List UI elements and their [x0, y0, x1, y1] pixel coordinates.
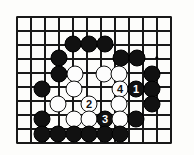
- stone-move-number: 3: [98, 112, 113, 127]
- black-stone[interactable]: [34, 126, 51, 143]
- stone-move-number: 2: [82, 97, 97, 112]
- black-stone[interactable]: [144, 96, 161, 113]
- stone-move-number: 4: [113, 82, 128, 97]
- black-stone[interactable]: [112, 126, 129, 143]
- black-stone[interactable]: [129, 50, 146, 67]
- black-stone[interactable]: [128, 111, 145, 128]
- black-stone-move-1[interactable]: 1: [128, 81, 145, 98]
- black-stone[interactable]: [81, 36, 98, 53]
- black-stone[interactable]: [113, 50, 130, 67]
- white-stone[interactable]: [66, 81, 83, 98]
- black-stone[interactable]: [81, 126, 98, 143]
- stone-move-number: 1: [129, 82, 144, 97]
- black-stone[interactable]: [51, 66, 68, 83]
- white-stone[interactable]: [50, 96, 67, 113]
- black-stone[interactable]: [97, 36, 114, 53]
- black-stone[interactable]: [65, 36, 82, 53]
- black-stone[interactable]: [51, 50, 68, 67]
- black-stone[interactable]: [50, 126, 67, 143]
- black-stone[interactable]: [34, 81, 51, 98]
- go-diagram: 4123: [0, 0, 194, 155]
